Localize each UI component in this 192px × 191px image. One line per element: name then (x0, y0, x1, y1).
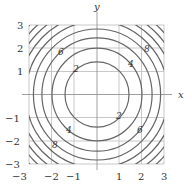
svg-text:1: 1 (116, 171, 122, 182)
y-axis-label: y (93, 1, 100, 12)
svg-text:3: 3 (17, 20, 23, 31)
svg-text:−3: −3 (12, 171, 27, 182)
svg-text:4: 4 (65, 125, 72, 135)
svg-text:2: 2 (72, 64, 79, 74)
svg-text:8: 8 (52, 140, 58, 150)
svg-text:8: 8 (144, 44, 150, 54)
svg-text:−2: −2 (5, 136, 20, 147)
svg-text:2: 2 (115, 111, 122, 121)
contours (2, 0, 192, 191)
svg-text:−1: −1 (5, 113, 20, 124)
svg-text:−2: −2 (44, 171, 59, 182)
svg-text:6: 6 (58, 47, 64, 57)
contour-plot: 22 44 66 88 −3−2−1123 321−1−2−3 y x (0, 0, 191, 191)
x-axis-label: x (178, 89, 184, 100)
svg-text:2: 2 (17, 43, 23, 54)
svg-text:1: 1 (17, 66, 23, 77)
svg-text:6: 6 (137, 125, 143, 135)
svg-text:−3: −3 (5, 159, 20, 170)
svg-text:2: 2 (138, 171, 144, 182)
svg-text:3: 3 (161, 171, 167, 182)
svg-text:−1: −1 (66, 171, 81, 182)
svg-text:4: 4 (127, 59, 134, 69)
